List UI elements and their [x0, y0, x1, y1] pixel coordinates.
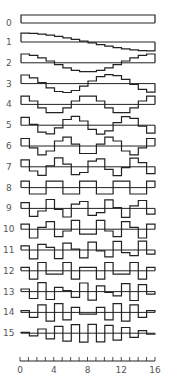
- waveform-row-1: 1: [6, 33, 155, 51]
- row-label: 15: [3, 328, 14, 338]
- waveform-row-11: 11: [3, 241, 155, 259]
- waveform-rows: 0123456789101112131415: [3, 15, 155, 342]
- waveform-row-12: 12: [3, 263, 155, 280]
- row-label: 13: [3, 287, 14, 297]
- x-tick-label: 16: [149, 365, 161, 375]
- row-label: 14: [3, 307, 15, 317]
- dct-basis-diagram: 0123456789101112131415 0481216: [0, 0, 169, 384]
- row-label: 8: [6, 183, 12, 193]
- waveform-row-0: 0: [6, 15, 155, 28]
- x-tick-label: 8: [85, 365, 91, 375]
- row-label: 3: [6, 79, 12, 89]
- row-label: 11: [3, 245, 14, 255]
- waveform-row-8: 8: [6, 181, 155, 194]
- waveform-row-9: 9: [6, 200, 155, 218]
- row-label: 9: [6, 203, 12, 213]
- waveform-row-2: 2: [6, 54, 155, 72]
- row-label: 2: [6, 58, 12, 68]
- waveform-row-6: 6: [6, 137, 155, 155]
- waveform-row-4: 4: [6, 96, 155, 113]
- row-label: 4: [6, 99, 12, 109]
- waveform-row-13: 13: [3, 283, 155, 301]
- row-label: 10: [3, 224, 15, 234]
- row-label: 6: [6, 141, 12, 151]
- row-label: 12: [3, 266, 14, 276]
- waveform-row-3: 3: [6, 75, 155, 93]
- waveform-row-10: 10: [3, 220, 155, 238]
- row-label: 1: [6, 37, 12, 47]
- x-tick-label: 12: [116, 365, 127, 375]
- x-axis: 0481216: [17, 357, 161, 375]
- x-tick-label: 0: [17, 365, 23, 375]
- row-label: 5: [6, 120, 12, 130]
- step-waveform: [21, 15, 155, 23]
- row-label: 0: [6, 18, 12, 28]
- waveform-row-7: 7: [6, 158, 155, 176]
- waveform-row-14: 14: [3, 304, 155, 322]
- waveform-row-5: 5: [6, 116, 155, 134]
- x-tick-label: 4: [51, 365, 57, 375]
- waveform-row-15: 15: [3, 324, 155, 342]
- row-label: 7: [6, 162, 12, 172]
